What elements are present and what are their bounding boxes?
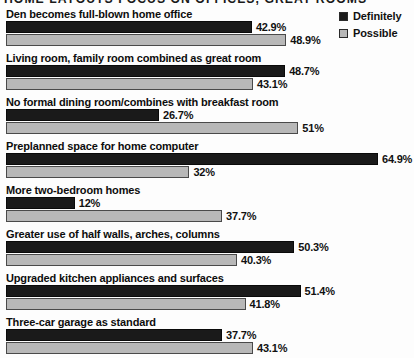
- bar-value-possible: 43.1%: [257, 78, 287, 90]
- bar-value-possible: 51%: [302, 122, 323, 134]
- bar-possible: [6, 254, 237, 266]
- bar-row-definitely: 64.9%: [6, 153, 412, 165]
- bar-group-label: Living room, family room combined as gre…: [6, 52, 261, 64]
- bar-definitely: [6, 197, 75, 209]
- bar-possible: [6, 122, 298, 134]
- bar-group-label: Upgraded kitchen appliances and surfaces: [6, 272, 224, 284]
- bar-definitely: [6, 21, 252, 33]
- bar-value-possible: 41.8%: [250, 298, 280, 310]
- bar-row-possible: 37.7%: [6, 210, 256, 222]
- bar-value-definitely: 48.7%: [289, 65, 319, 77]
- bar-definitely: [6, 109, 159, 121]
- bar-row-definitely: 12%: [6, 197, 100, 209]
- bar-row-possible: 41.8%: [6, 298, 280, 310]
- bar-value-definitely: 42.9%: [256, 21, 286, 33]
- bar-group: Upgraded kitchen appliances and surfaces…: [0, 272, 414, 316]
- bar-possible: [6, 166, 189, 178]
- bar-row-possible: 32%: [6, 166, 215, 178]
- bar-possible: [6, 210, 222, 222]
- bar-group: Preplanned space for home computer64.9%3…: [0, 140, 414, 184]
- bar-row-definitely: 42.9%: [6, 21, 286, 33]
- bar-value-possible: 43.1%: [257, 342, 287, 354]
- bar-possible: [6, 34, 286, 46]
- bar-row-possible: 43.1%: [6, 342, 287, 354]
- bar-definitely: [6, 153, 378, 165]
- chart-container: HOME LAYOUTS FOCUS ON OFFICES, GREAT ROO…: [0, 0, 414, 358]
- bar-value-possible: 32%: [193, 166, 214, 178]
- bar-definitely: [6, 65, 285, 77]
- bar-definitely: [6, 285, 301, 297]
- bar-value-definitely: 12%: [79, 197, 100, 209]
- bar-group-label: More two-bedroom homes: [6, 184, 140, 196]
- bar-group: More two-bedroom homes12%37.7%: [0, 184, 414, 228]
- bar-possible: [6, 78, 253, 90]
- bar-row-definitely: 37.7%: [6, 329, 256, 341]
- bar-row-definitely: 51.4%: [6, 285, 335, 297]
- bar-group-label: Three-car garage as standard: [6, 316, 156, 328]
- bar-row-possible: 40.3%: [6, 254, 271, 266]
- bar-definitely: [6, 241, 294, 253]
- bar-row-definitely: 50.3%: [6, 241, 329, 253]
- bar-possible: [6, 342, 253, 354]
- bar-group-label: Greater use of half walls, arches, colum…: [6, 228, 220, 240]
- bar-group-label: Preplanned space for home computer: [6, 140, 198, 152]
- bar-group-label: No formal dining room/combines with brea…: [6, 96, 278, 108]
- bar-row-definitely: 48.7%: [6, 65, 319, 77]
- bar-value-definitely: 50.3%: [298, 241, 328, 253]
- bar-row-possible: 48.9%: [6, 34, 320, 46]
- bar-group: No formal dining room/combines with brea…: [0, 96, 414, 140]
- bar-value-possible: 40.3%: [241, 254, 271, 266]
- bar-value-possible: 37.7%: [226, 210, 256, 222]
- bar-value-possible: 48.9%: [290, 34, 320, 46]
- bar-possible: [6, 298, 246, 310]
- bar-group: Three-car garage as standard37.7%43.1%: [0, 316, 414, 358]
- bar-row-definitely: 26.7%: [6, 109, 193, 121]
- chart-title: HOME LAYOUTS FOCUS ON OFFICES, GREAT ROO…: [4, 0, 367, 6]
- bar-value-definitely: 51.4%: [305, 285, 335, 297]
- bar-value-definitely: 37.7%: [226, 329, 256, 341]
- bar-group: Living room, family room combined as gre…: [0, 52, 414, 96]
- bar-value-definitely: 26.7%: [163, 109, 193, 121]
- plot-area: Den becomes full-blown home office42.9%4…: [0, 8, 414, 358]
- bar-row-possible: 51%: [6, 122, 324, 134]
- bar-definitely: [6, 329, 222, 341]
- bar-row-possible: 43.1%: [6, 78, 287, 90]
- bar-group-label: Den becomes full-blown home office: [6, 8, 192, 20]
- bar-group: Den becomes full-blown home office42.9%4…: [0, 8, 414, 52]
- bar-group: Greater use of half walls, arches, colum…: [0, 228, 414, 272]
- bar-value-definitely: 64.9%: [382, 153, 412, 165]
